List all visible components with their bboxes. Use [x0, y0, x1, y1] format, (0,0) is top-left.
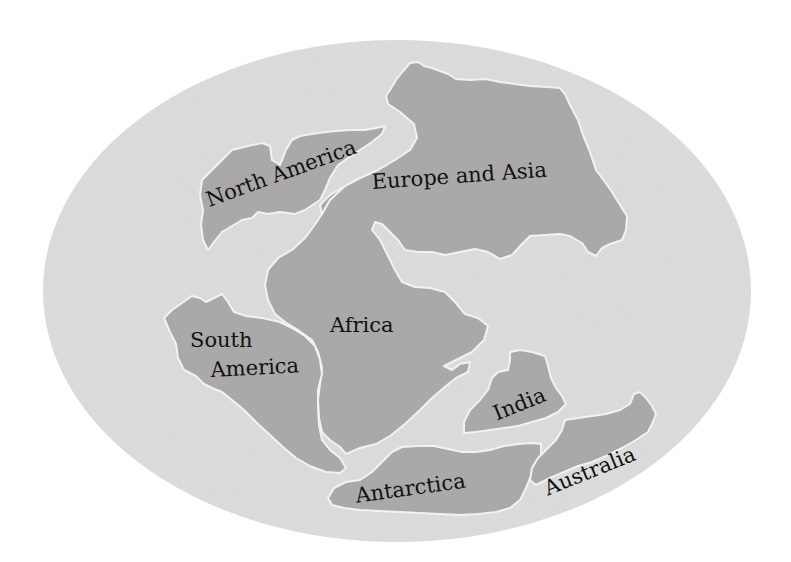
- label-south-america-line1: South: [190, 329, 253, 352]
- label-africa: Africa: [330, 314, 394, 337]
- label-south-america-line2: America: [210, 354, 300, 382]
